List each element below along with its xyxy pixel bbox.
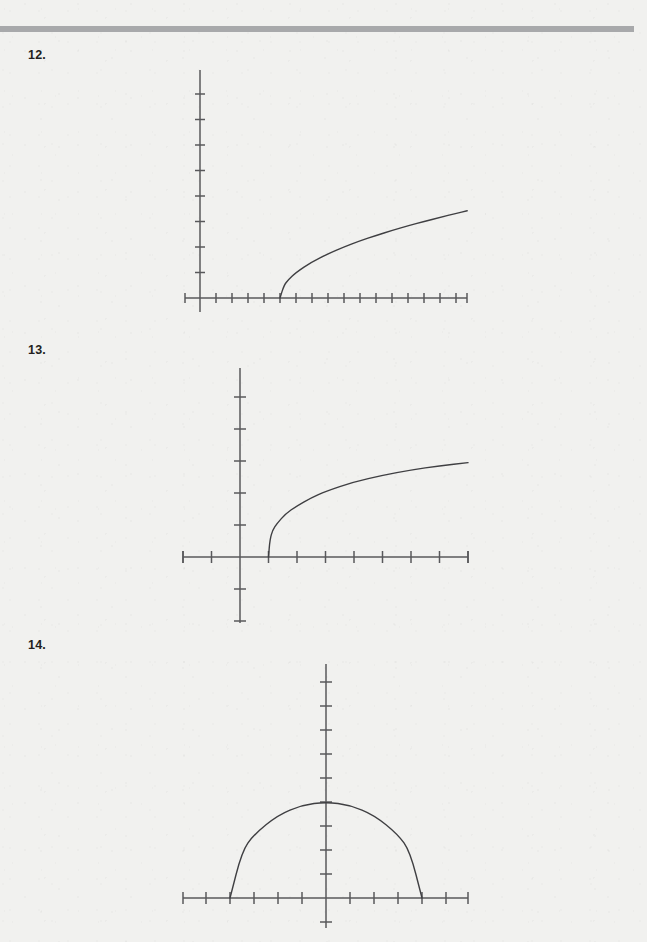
graph-12 xyxy=(0,0,647,330)
graph-14-svg xyxy=(0,640,647,942)
graph-14 xyxy=(0,640,647,942)
worksheet-page: 12. 13. 14. xyxy=(0,0,647,942)
graph-13-svg xyxy=(0,330,647,640)
graph-13 xyxy=(0,330,647,640)
curve-square-root xyxy=(280,211,467,298)
graph-12-svg xyxy=(0,0,647,330)
curve-logarithmic xyxy=(269,463,469,557)
